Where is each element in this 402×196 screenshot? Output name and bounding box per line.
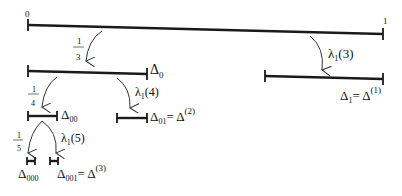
left-endpoint-label: 0 — [25, 9, 30, 19]
right-endpoint-label: 1 — [383, 16, 388, 26]
arrow-one-fifth: 1 5 — [13, 121, 42, 153]
arrow-lambda-3: λ1(3) — [310, 36, 353, 70]
arrow-lambda-5: λ1(5) — [42, 121, 85, 153]
arrow-one-fourth: 1 4 — [28, 77, 57, 108]
svg-text:Δ01= Δ(2): Δ01= Δ(2) — [150, 106, 195, 126]
interval-delta-1: Δ1= Δ(1) — [265, 70, 383, 105]
interval-delta-001: Δ001= Δ(3) — [50, 157, 106, 183]
svg-text:Δ001= Δ(3): Δ001= Δ(3) — [57, 163, 106, 183]
svg-text:5: 5 — [17, 144, 21, 153]
svg-text:1: 1 — [77, 36, 82, 46]
interval-delta-01: Δ01= Δ(2) — [117, 106, 195, 126]
svg-text:λ1(3): λ1(3) — [328, 46, 353, 63]
interval-delta-0: Δ0 — [28, 62, 164, 80]
svg-text:1: 1 — [17, 131, 21, 140]
svg-text:1: 1 — [32, 85, 36, 94]
svg-text:Δ0: Δ0 — [150, 62, 164, 80]
svg-text:λ1(5): λ1(5) — [61, 131, 85, 147]
svg-text:λ1(4): λ1(4) — [135, 85, 159, 101]
interval-diagram: 0 1 1 3 Δ0 λ1(3) Δ1= Δ(1) 1 4 λ1(4) — [0, 0, 402, 196]
svg-text:Δ1= Δ(1): Δ1= Δ(1) — [340, 85, 381, 105]
svg-text:4: 4 — [31, 99, 35, 108]
arrow-lambda-4: λ1(4) — [117, 78, 159, 108]
svg-text:Δ000: Δ000 — [18, 166, 38, 183]
svg-text:Δ00: Δ00 — [61, 107, 77, 124]
interval-delta-00: Δ00 — [28, 107, 77, 124]
interval-delta-000: Δ000 — [18, 157, 38, 183]
svg-text:3: 3 — [76, 52, 81, 62]
arrow-one-third: 1 3 — [73, 31, 102, 62]
